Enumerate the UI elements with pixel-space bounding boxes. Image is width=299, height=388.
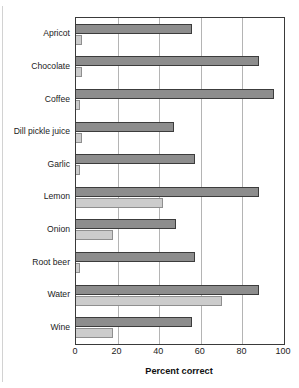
bar-group [76, 116, 284, 149]
bar-light [76, 198, 163, 208]
bar-dark [76, 56, 259, 66]
bar-dark [76, 122, 174, 132]
category-label: Chocolate [0, 61, 70, 71]
bar-group [76, 181, 284, 214]
bar-light [76, 67, 82, 77]
category-label: Root beer [0, 257, 70, 267]
category-label: Dill pickle juice [0, 126, 70, 136]
bar-light [76, 296, 222, 306]
x-tick-label: 100 [275, 346, 290, 356]
bar-dark [76, 24, 192, 34]
x-tick-label: 40 [153, 346, 163, 356]
x-axis-tick-labels: 020406080100 [0, 346, 299, 360]
x-tick-label: 80 [236, 346, 246, 356]
bar-light [76, 230, 113, 240]
x-tick-label: 0 [72, 346, 77, 356]
category-label: Wine [0, 322, 70, 332]
bar-dark [76, 252, 195, 262]
bar-group [76, 279, 284, 312]
category-label: Coffee [0, 94, 70, 104]
category-label: Water [0, 289, 70, 299]
bar-group [76, 246, 284, 279]
x-tick-label: 20 [112, 346, 122, 356]
category-axis-labels: ApricotChocolateCoffeeDill pickle juiceG… [0, 17, 70, 343]
bar-light [76, 263, 80, 273]
bar-dark [76, 187, 259, 197]
bar-dark [76, 285, 259, 295]
bar-light [76, 35, 82, 45]
category-label: Apricot [0, 28, 70, 38]
bar-group [76, 311, 284, 344]
bar-group [76, 148, 284, 181]
bar-group [76, 214, 284, 247]
bar-group [76, 83, 284, 116]
bar-rows [76, 18, 284, 344]
x-axis-title: Percent correct [75, 366, 283, 376]
bar-light [76, 165, 80, 175]
bar-light [76, 100, 80, 110]
bar-dark [76, 154, 195, 164]
bar-light [76, 328, 113, 338]
plot-area [75, 17, 285, 345]
x-tick-label: 60 [195, 346, 205, 356]
bar-group [76, 51, 284, 84]
bar-dark [76, 89, 274, 99]
scan-artifact-strip [0, 0, 299, 12]
category-label: Garlic [0, 159, 70, 169]
figure: ApricotChocolateCoffeeDill pickle juiceG… [0, 0, 299, 388]
bar-dark [76, 219, 176, 229]
bar-dark [76, 317, 192, 327]
bar-group [76, 18, 284, 51]
category-label: Onion [0, 224, 70, 234]
bar-light [76, 133, 82, 143]
category-label: Lemon [0, 191, 70, 201]
